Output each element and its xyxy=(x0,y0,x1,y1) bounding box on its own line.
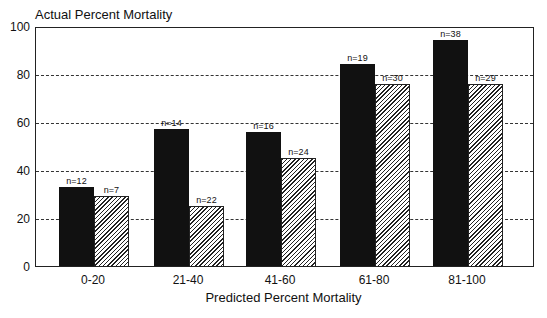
y-tick: 80 xyxy=(0,68,30,82)
y-tick: 60 xyxy=(0,116,30,130)
y-axis-title: Actual Percent Mortality xyxy=(35,7,172,22)
bar-solid xyxy=(433,40,468,266)
n-label: n=14 xyxy=(152,118,192,128)
n-label: n=22 xyxy=(187,195,227,205)
x-tick-label: 21-40 xyxy=(158,273,218,287)
y-tick: 40 xyxy=(0,164,30,178)
bar-hatched xyxy=(281,158,316,266)
n-label: n=12 xyxy=(57,176,97,186)
x-tick-label: 61-80 xyxy=(344,273,404,287)
y-tick: 0 xyxy=(0,260,30,274)
bar-solid xyxy=(59,187,94,266)
y-tick: 20 xyxy=(0,212,30,226)
n-label: n=29 xyxy=(466,73,506,83)
bar-hatched xyxy=(189,206,224,266)
n-label: n=7 xyxy=(92,185,132,195)
plot-area: n=12n=7n=14n=22n=16n=24n=19n=30n=38n=29 xyxy=(35,27,534,267)
n-label: n=24 xyxy=(279,147,319,157)
x-axis-title: Predicted Percent Mortality xyxy=(0,290,547,305)
n-label: n=19 xyxy=(338,53,378,63)
bar-hatched xyxy=(375,84,410,266)
bar-hatched xyxy=(94,196,129,266)
x-tick-label: 81-100 xyxy=(437,273,497,287)
x-tick-label: 0-20 xyxy=(63,273,123,287)
bar-hatched xyxy=(468,84,503,266)
bar-solid xyxy=(246,132,281,266)
n-label: n=38 xyxy=(431,29,471,39)
y-tick: 100 xyxy=(0,20,30,34)
n-label: n=30 xyxy=(373,73,413,83)
x-tick-label: 41-60 xyxy=(250,273,310,287)
n-label: n=16 xyxy=(244,121,284,131)
bar-solid xyxy=(154,129,189,266)
bar-solid xyxy=(340,64,375,266)
